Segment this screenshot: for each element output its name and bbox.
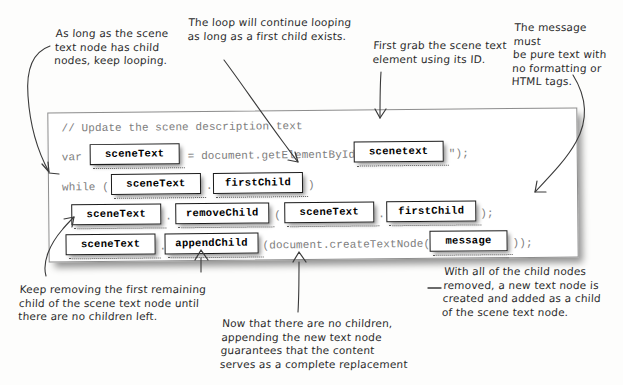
code-line-append-close: )); [513,237,533,249]
code-line-createtextnode: (document.createTextNode( [263,238,431,252]
code-line-while-dot: . [206,180,213,192]
arrow-no-children [298,262,299,312]
answer-token-firstchild-remove-arg[interactable]: firstChild [386,200,476,222]
code-line-while-close: ) [308,179,315,191]
code-line-remove-arg-dot: . [378,208,385,220]
code-line-comment: // Update the scene description text [61,120,302,134]
code-line-var-keyword: var [62,151,82,163]
code-listing-content: // Update the scene description text var… [47,107,576,260]
answer-token-scenetext-remove-target[interactable]: sceneText [71,203,161,225]
code-line-remove-close: ); [480,207,494,219]
answer-token-removechild[interactable]: removeChild [175,202,269,224]
code-line-while-keyword: while ( [62,181,109,193]
answer-token-scenetext-id[interactable]: scenetext [354,141,444,163]
annotation-pure-text: The message must be pure text with no fo… [511,21,615,89]
code-line-remove-open-paren: ( [274,209,281,221]
answer-token-firstchild-while[interactable]: firstChild [213,172,303,194]
answer-token-message[interactable]: message [429,230,507,252]
annotation-loop-continues: The loop will continue looping as long a… [187,16,373,43]
arrow-while-condition [28,46,50,172]
code-line-getelementbyid-close: "); [449,147,469,159]
answer-token-appendchild[interactable]: appendChild [164,233,258,255]
answer-token-scenetext-remove-arg[interactable]: sceneText [284,201,374,223]
annotation-no-children: Now that there are no children, appendin… [220,317,418,371]
annotated-code-figure: As long as the scene text node has child… [0,0,623,385]
answer-token-scenetext-append-target[interactable]: sceneText [65,234,155,256]
annotation-grab-element: First grab the scene text element using … [372,39,528,66]
annotation-while-condition: As long as the scene text node has child… [54,27,186,68]
code-line-remove-dot: . [165,210,172,222]
answer-token-scenetext-var[interactable]: sceneText [90,143,180,165]
annotation-new-text-node: With all of the child nodes removed, a n… [442,265,620,319]
code-line-getelementbyid: = document.getElementById(" [188,148,369,162]
answer-token-scenetext-while[interactable]: sceneText [111,173,201,195]
annotation-keep-removing: Keep removing the first remaining child … [18,283,225,324]
